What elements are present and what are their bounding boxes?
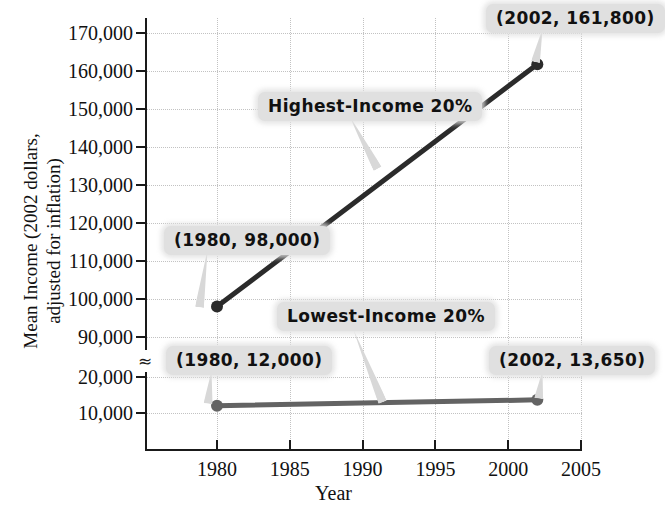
y-tick-label: 20,000 bbox=[78, 366, 133, 389]
y-axis-title: Mean Income (2002 dollars, adjusted for … bbox=[19, 91, 65, 391]
y-tick-label: 10,000 bbox=[78, 402, 133, 425]
y-tick-label: 120,000 bbox=[68, 212, 133, 235]
annotation-highest-series-label: Highest-Income 20% bbox=[258, 92, 482, 121]
x-tick-label: 1980 bbox=[197, 458, 237, 481]
x-tick-label: 1990 bbox=[343, 458, 383, 481]
y-tick-label: 140,000 bbox=[68, 136, 133, 159]
annotation-lowest-series-label: Lowest-Income 20% bbox=[277, 302, 495, 331]
y-tick-label: 160,000 bbox=[68, 60, 133, 83]
annotation-point-1980-12000: (1980, 12,000) bbox=[166, 346, 332, 375]
annotation-point-2002-13650: (2002, 13,650) bbox=[489, 346, 655, 375]
y-tick-label: 100,000 bbox=[68, 288, 133, 311]
x-tick-label: 1995 bbox=[415, 458, 455, 481]
data-point-marker bbox=[211, 301, 223, 313]
y-tick-label: 130,000 bbox=[68, 174, 133, 197]
annotation-point-2002-161800: (2002, 161,800) bbox=[486, 4, 665, 33]
series-line bbox=[217, 400, 537, 406]
x-axis-title: Year bbox=[0, 482, 627, 505]
x-tick-label: 2000 bbox=[488, 458, 528, 481]
y-tick-label: 170,000 bbox=[68, 22, 133, 45]
y-tick-label: 150,000 bbox=[68, 98, 133, 121]
annotation-point-1980-98000: (1980, 98,000) bbox=[164, 226, 330, 255]
y-tick-label: 90,000 bbox=[78, 326, 133, 349]
x-tick-label: 1985 bbox=[270, 458, 310, 481]
x-axis-title-text: Year bbox=[315, 482, 352, 505]
data-point-marker bbox=[211, 400, 223, 412]
y-tick-label: 110,000 bbox=[69, 250, 133, 273]
x-tick-label: 2005 bbox=[561, 458, 601, 481]
